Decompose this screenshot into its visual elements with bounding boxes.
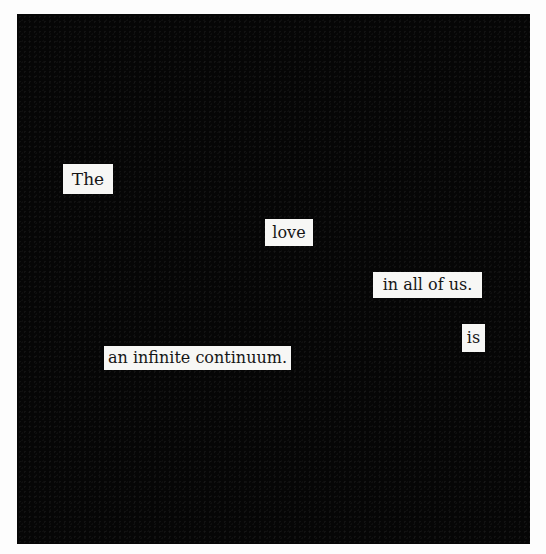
poem-word-love: love [265,219,313,246]
poem-word-an-infinite-continuum: an infinite continuum. [104,346,291,370]
poem-word-the: The [63,164,113,194]
poem-word-in-all-of-us: in all of us. [373,272,482,298]
poem-word-is: is [462,324,485,352]
blackout-poem-page: The love in all of us. is an infinite co… [0,0,546,554]
